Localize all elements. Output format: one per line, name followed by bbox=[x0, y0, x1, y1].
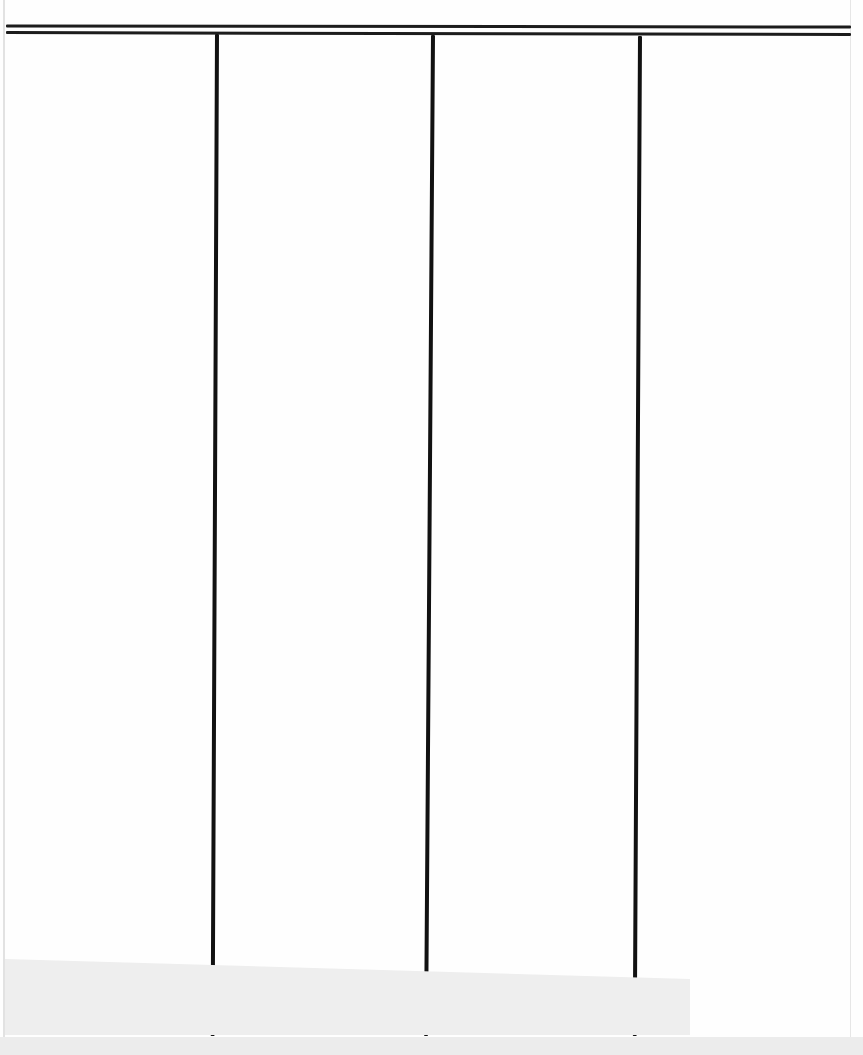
cropped-heading-remnant bbox=[0, 0, 300, 6]
column-divider-1 bbox=[211, 34, 219, 1036]
scanned-page bbox=[0, 0, 863, 1055]
page-right-edge bbox=[850, 0, 851, 1040]
header-rule-lower bbox=[6, 31, 851, 36]
scan-shadow-band bbox=[5, 955, 690, 1035]
column-divider-3 bbox=[633, 36, 642, 1036]
page-left-edge bbox=[3, 0, 5, 1040]
header-rule-upper bbox=[6, 24, 851, 28]
scan-bottom-margin bbox=[0, 1037, 863, 1055]
column-divider-2 bbox=[424, 35, 435, 1036]
